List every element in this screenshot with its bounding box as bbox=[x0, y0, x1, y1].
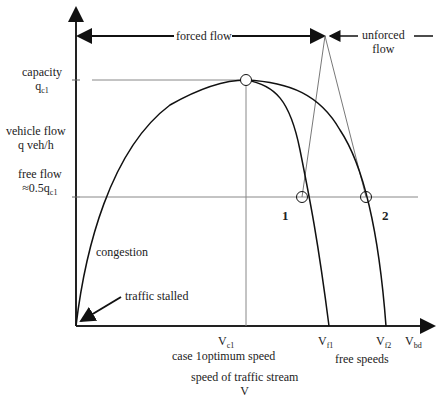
capacity-point bbox=[241, 75, 252, 86]
case-1-label: 1 bbox=[282, 209, 289, 223]
free-speeds-label: free speeds bbox=[335, 352, 389, 366]
optimum-speed-label: case 1optimum speed bbox=[172, 349, 275, 363]
congestion-label: congestion bbox=[96, 245, 148, 259]
traffic-stalled-label: traffic stalled bbox=[125, 289, 188, 303]
vf2-label: Vf2 bbox=[376, 334, 391, 353]
free-flow-label: free flow ≈0.5qc1 bbox=[18, 167, 62, 200]
curve-case-2 bbox=[246, 80, 386, 326]
vbd-label: Vbd bbox=[405, 334, 422, 353]
capacity-label: capacity qc1 bbox=[22, 65, 62, 98]
traffic-stalled-arrow bbox=[81, 297, 121, 321]
curve-case-1 bbox=[246, 80, 329, 326]
vehicle-flow-label: vehicle flow q veh/h bbox=[6, 124, 66, 152]
x-axis-title: speed of traffic stream V bbox=[191, 370, 298, 398]
forced-flow-label: forced flow bbox=[176, 29, 232, 43]
vf1-label: Vf1 bbox=[318, 334, 333, 353]
case-2-label: 2 bbox=[382, 209, 389, 223]
unforced-flow-label: unforced flow bbox=[362, 28, 405, 56]
